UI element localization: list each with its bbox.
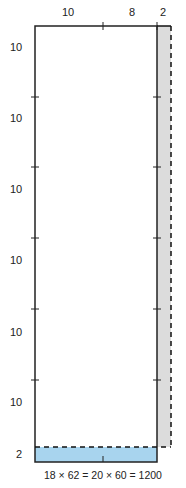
- left-label: 2: [16, 448, 22, 460]
- main-rectangle: [35, 26, 157, 462]
- area-equation: 18 × 62 = 20 × 60 = 1200: [44, 469, 162, 481]
- removed-strip: [157, 26, 171, 447]
- left-label: 10: [10, 396, 22, 408]
- top-label-2: 2: [160, 6, 166, 18]
- left-label: 10: [10, 254, 22, 266]
- left-label: 10: [10, 41, 22, 53]
- left-label: 10: [10, 183, 22, 195]
- rectangle-diagram: [0, 0, 186, 488]
- left-label: 10: [10, 112, 22, 124]
- added-strip: [35, 447, 157, 462]
- left-label: 10: [10, 326, 22, 338]
- top-label-10: 10: [62, 6, 74, 18]
- top-label-8: 8: [129, 6, 135, 18]
